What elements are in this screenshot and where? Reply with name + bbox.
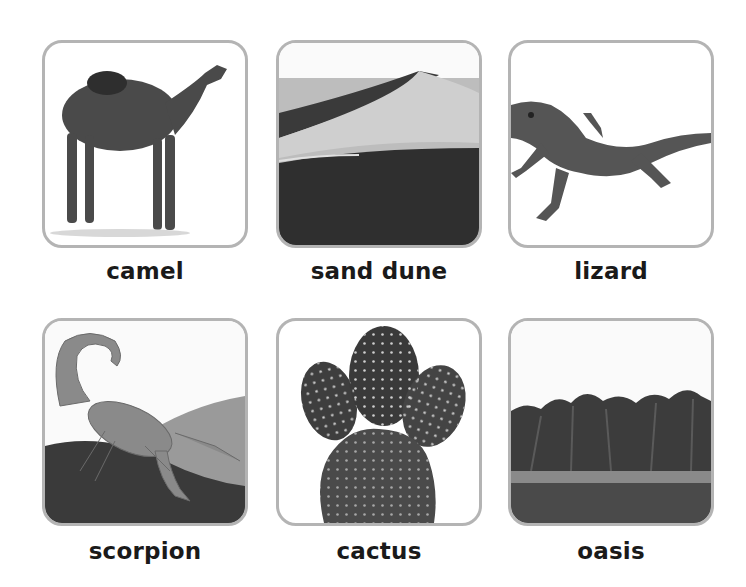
camel-card (42, 40, 248, 248)
cactus-image (279, 321, 479, 523)
oasis-image (511, 321, 711, 523)
sand-dune-label: sand dune (276, 258, 482, 284)
camel-image (45, 43, 245, 245)
sand-dune-image (279, 43, 479, 245)
scorpion-image (45, 321, 245, 523)
cactus-card (276, 318, 482, 526)
cactus-label: cactus (276, 538, 482, 564)
oasis-label: oasis (508, 538, 714, 564)
oasis-card (508, 318, 714, 526)
camel-label: camel (42, 258, 248, 284)
scorpion-card (42, 318, 248, 526)
lizard-label: lizard (508, 258, 714, 284)
scorpion-label: scorpion (42, 538, 248, 564)
sand-dune-card (276, 40, 482, 248)
lizard-image (511, 43, 711, 245)
lizard-card (508, 40, 714, 248)
